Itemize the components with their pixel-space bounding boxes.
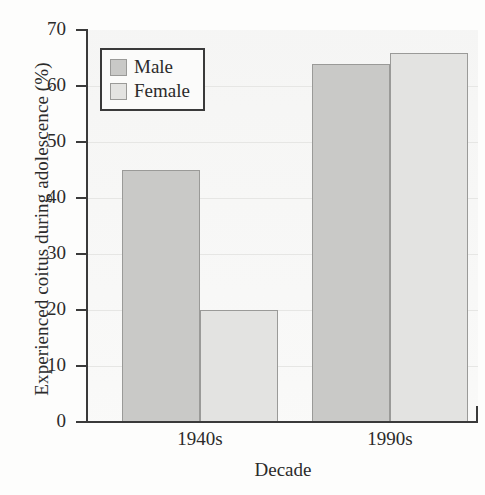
y-tick-0 xyxy=(76,421,87,423)
legend-label-male: Male xyxy=(134,57,173,77)
x-axis-title: Decade xyxy=(88,459,478,481)
y-tick-70 xyxy=(76,29,87,31)
y-tick-label-40: 40 xyxy=(6,186,66,208)
y-tick-40 xyxy=(76,197,87,199)
bar-1940s-male xyxy=(122,170,200,422)
y-tick-label-10: 10 xyxy=(6,354,66,376)
bar-1990s-male xyxy=(312,64,390,422)
y-tick-30 xyxy=(76,253,87,255)
y-tick-label-0: 0 xyxy=(6,410,66,432)
x-axis-line xyxy=(86,421,478,423)
x-tick-label-1940s: 1940s xyxy=(140,428,260,450)
bar-chart-figure: Experienced coitus during adolescence (%… xyxy=(0,0,485,495)
y-tick-50 xyxy=(76,141,87,143)
female-swatch-icon xyxy=(110,83,127,100)
y-tick-10 xyxy=(76,365,87,367)
legend-item-male: Male xyxy=(110,55,190,79)
y-axis-line xyxy=(86,29,88,423)
y-tick-label-30: 30 xyxy=(6,242,66,264)
bar-1990s-female xyxy=(390,53,468,422)
legend-item-female: Female xyxy=(110,79,190,103)
y-tick-label-70: 70 xyxy=(6,18,66,40)
y-tick-60 xyxy=(76,85,87,87)
plot-area: Male Female xyxy=(88,30,478,422)
y-tick-label-50: 50 xyxy=(6,130,66,152)
male-swatch-icon xyxy=(110,59,127,76)
x-axis-right-end-cap xyxy=(476,406,478,423)
legend-label-female: Female xyxy=(134,81,190,101)
bar-1940s-female xyxy=(200,310,278,422)
y-tick-20 xyxy=(76,309,87,311)
y-tick-label-20: 20 xyxy=(6,298,66,320)
legend: Male Female xyxy=(100,48,205,111)
x-tick-label-1990s: 1990s xyxy=(330,428,450,450)
y-tick-label-60: 60 xyxy=(6,74,66,96)
